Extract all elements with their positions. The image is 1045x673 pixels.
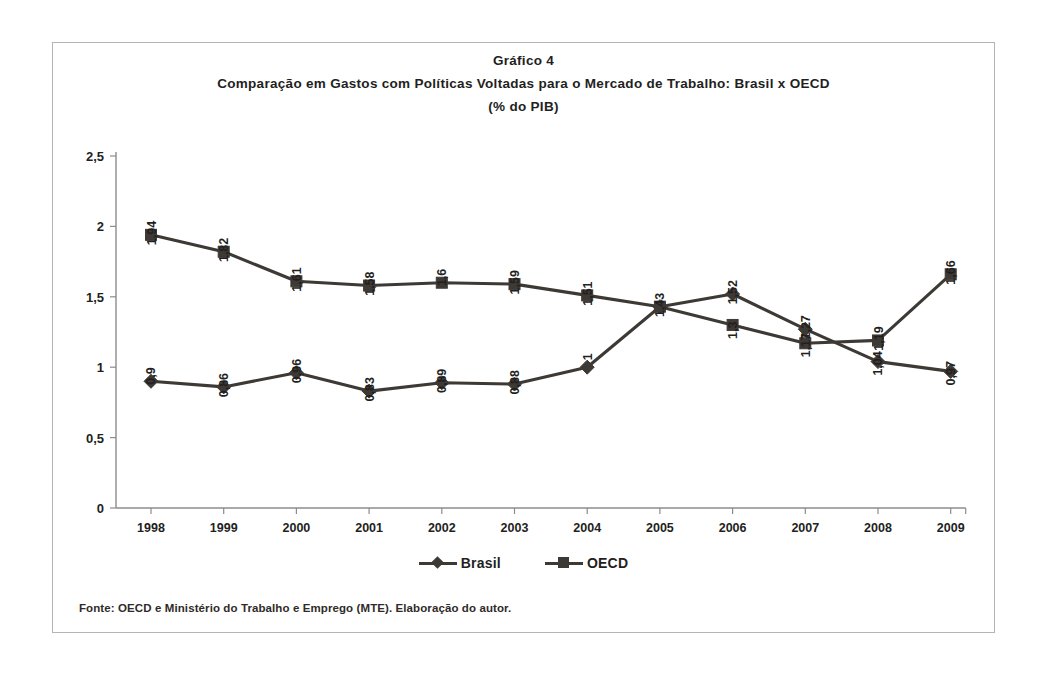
- x-axis-tick-label: 2001: [355, 521, 383, 535]
- data-label-oecd-2007: 1,17: [799, 333, 813, 357]
- data-label-brasil-2006: 1,52: [726, 280, 740, 304]
- series-line-oecd: [151, 235, 951, 343]
- y-axis-tick-label: 0,5: [86, 431, 104, 446]
- data-label-oecd-2006: 1,3: [726, 322, 740, 339]
- data-label-brasil-2002: 0,89: [435, 369, 449, 393]
- x-axis-tick-label: 1998: [137, 521, 165, 535]
- x-axis-tick-label: 2003: [501, 521, 529, 535]
- legend-label-oecd: OECD: [587, 555, 628, 571]
- x-axis-tick-label: 2002: [428, 521, 456, 535]
- legend-label-brasil: Brasil: [461, 555, 501, 571]
- x-axis-tick-label: 2000: [282, 521, 310, 535]
- data-label-brasil-2000: 0,96: [290, 359, 304, 383]
- y-axis-tick-label: 1: [97, 360, 104, 375]
- data-label-oecd-2004: 1,51: [581, 281, 595, 305]
- source-note: Fonte: OECD e Ministério do Trabalho e E…: [79, 602, 511, 614]
- x-axis-tick-label: 2008: [864, 521, 892, 535]
- legend-item-brasil[interactable]: Brasil: [419, 555, 501, 571]
- y-axis-tick-label: 1,5: [86, 290, 104, 305]
- legend-marker-diamond-icon: [419, 556, 457, 570]
- y-axis-tick-label: 2,5: [86, 149, 104, 164]
- data-label-oecd-2002: 1,6: [435, 269, 449, 286]
- x-axis-tick-label: 2009: [937, 521, 965, 535]
- data-label-oecd-2003: 1,59: [508, 270, 522, 294]
- data-label-oecd-2001: 1,58: [363, 271, 377, 295]
- legend-marker-square-icon: [545, 556, 583, 570]
- data-label-oecd-2009: 1,66: [944, 260, 958, 284]
- y-axis-tick-label: 0: [97, 501, 104, 516]
- x-axis-tick-label: 2007: [791, 521, 819, 535]
- data-label-brasil-2008: 1,04: [871, 351, 885, 375]
- chart-legend: Brasil OECD: [53, 555, 994, 571]
- data-label-oecd-2000: 1,61: [290, 267, 304, 291]
- chart-plot-area: 00,511,522,51998199920002001200220032004…: [53, 43, 996, 634]
- data-label-brasil-2004: 1: [581, 353, 595, 360]
- legend-item-oecd[interactable]: OECD: [545, 555, 628, 571]
- data-label-brasil-1998: 0,9: [144, 367, 158, 384]
- x-axis-tick-label: 2004: [573, 521, 601, 535]
- data-label-oecd-1999: 1,82: [217, 238, 231, 262]
- data-label-brasil-2009: 0,97: [944, 361, 958, 385]
- data-label-brasil-1999: 0,86: [217, 373, 231, 397]
- data-label-brasil-2003: 0,88: [508, 370, 522, 394]
- figure-frame: Gráfico 4 Comparação em Gastos com Polít…: [52, 42, 995, 633]
- data-label-oecd-2008: 1,19: [872, 326, 886, 350]
- x-axis-tick-label: 2005: [646, 521, 674, 535]
- x-axis-tick-label: 2006: [719, 521, 747, 535]
- y-axis-tick-label: 2: [97, 219, 104, 234]
- data-label-oecd-1998: 1,94: [145, 221, 159, 245]
- data-label-oecd-2005: 1,43: [653, 293, 667, 317]
- data-label-brasil-2001: 0,83: [363, 377, 377, 401]
- x-axis-tick-label: 1999: [210, 521, 238, 535]
